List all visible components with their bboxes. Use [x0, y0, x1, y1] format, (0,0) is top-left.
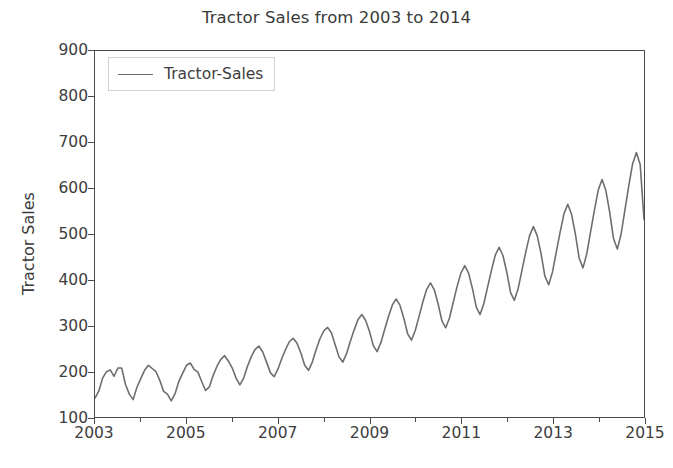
chart-legend: Tractor-Sales — [108, 57, 275, 91]
series-line-chart — [95, 51, 644, 417]
legend-line-swatch — [118, 74, 153, 75]
x-tick-mark-minor — [140, 418, 141, 422]
y-tick-label: 200 — [44, 363, 88, 381]
x-tick-label: 2015 — [625, 424, 664, 442]
x-tick-mark — [370, 418, 371, 424]
x-tick-mark — [461, 418, 462, 424]
y-tick-mark — [88, 188, 94, 189]
x-tick-mark — [186, 418, 187, 424]
y-tick-label: 500 — [44, 225, 88, 243]
x-tick-label: 2013 — [533, 424, 572, 442]
plot-area — [94, 50, 645, 418]
y-tick-label: 600 — [44, 179, 88, 197]
y-tick-mark — [88, 96, 94, 97]
x-tick-label: 2007 — [258, 424, 297, 442]
x-tick-mark-minor — [232, 418, 233, 422]
y-axis-tick-labels: 100200300400500600700800900 — [36, 50, 88, 418]
x-tick-mark — [645, 418, 646, 424]
x-tick-mark — [278, 418, 279, 424]
x-tick-label: 2009 — [350, 424, 389, 442]
y-axis-label: Tractor Sales — [19, 154, 38, 334]
x-tick-label: 2003 — [74, 424, 113, 442]
tractor-sales-line — [95, 153, 644, 401]
chart-figure: Tractor Sales from 2003 to 2014 10020030… — [0, 0, 673, 468]
y-tick-label: 700 — [44, 133, 88, 151]
x-tick-mark-minor — [324, 418, 325, 422]
y-tick-mark — [88, 280, 94, 281]
y-tick-mark — [88, 372, 94, 373]
x-tick-mark — [553, 418, 554, 424]
y-tick-mark — [88, 326, 94, 327]
x-tick-label: 2011 — [442, 424, 481, 442]
y-tick-mark — [88, 50, 94, 51]
y-tick-mark — [88, 234, 94, 235]
x-tick-mark-minor — [415, 418, 416, 422]
legend-item-label: Tractor-Sales — [164, 65, 263, 83]
y-tick-label: 900 — [44, 41, 88, 59]
x-tick-mark-minor — [507, 418, 508, 422]
x-tick-label: 2005 — [166, 424, 205, 442]
x-tick-mark-minor — [599, 418, 600, 422]
y-tick-label: 300 — [44, 317, 88, 335]
y-tick-mark — [88, 142, 94, 143]
y-tick-label: 800 — [44, 87, 88, 105]
y-tick-label: 400 — [44, 271, 88, 289]
chart-title: Tractor Sales from 2003 to 2014 — [0, 8, 673, 27]
x-tick-mark — [94, 418, 95, 424]
x-axis-tick-labels: 2003200520072009201120132015 — [94, 424, 645, 452]
